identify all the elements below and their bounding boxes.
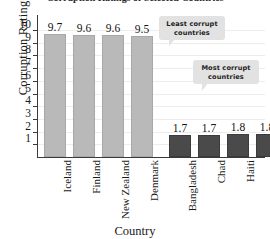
bar-new-zealand [102,35,124,157]
callout-tail-icon [169,39,175,46]
chart-title-clipped: Corruption Ratings of Selected Countries [0,0,270,5]
bar-bangladesh [169,135,191,157]
x-axis-category-label: New Zealand [119,160,132,219]
y-axis-tick [33,119,38,120]
chart-title-text: Corruption Ratings of Selected Countries [46,0,223,3]
bar-haiti [227,134,249,157]
bar-iceland [44,34,66,157]
y-axis-tick [33,106,38,107]
y-axis-tick [33,132,38,133]
y-axis-tick-label: 6 [9,70,31,81]
y-axis-tick-label: 3 [9,108,31,119]
y-axis-tick-label: 4 [9,95,31,106]
y-axis-tick [33,43,38,44]
x-axis-category-label: Chad [215,160,228,183]
y-axis-tick [33,94,38,95]
y-axis-tick [33,68,38,69]
y-axis-tick [33,81,38,82]
y-axis-tick [33,144,38,145]
y-axis-tick-label: 9 [9,32,31,43]
annotation-most-line2: countries [199,73,253,82]
y-axis-line [37,15,38,158]
x-axis-line [37,157,265,158]
y-axis-tick-label: 10 [9,19,31,30]
annotation-least-corrupt: Least corrupt countries [159,16,225,40]
x-axis-category-label: Denmark [148,160,161,201]
annotation-least-line2: countries [165,29,219,38]
y-axis-tick-label: 2 [9,121,31,132]
x-axis-category-label: Finland [90,160,103,194]
y-axis-tick-label: 5 [9,83,31,94]
y-axis-tick-label: 1 [9,133,31,144]
callout-tail-icon [202,83,208,91]
bar-finland [73,35,95,157]
x-axis-category-label: Bangladesh [186,160,199,211]
x-axis-category-label: Haiti [244,160,257,182]
bar-value-label: 1.8 [250,121,270,133]
bar-myanmar [256,134,270,157]
y-axis-tick [33,55,38,56]
bar-denmark [131,36,153,157]
x-axis-title: Country [0,224,270,239]
annotation-most-line1: Most corrupt [201,64,250,72]
bar-chad [198,135,220,157]
y-axis-tick-label: 7 [9,57,31,68]
annotation-most-corrupt: Most corrupt countries [193,60,259,84]
plot-area [37,15,265,158]
y-axis-tick-label: 8 [9,44,31,55]
bar-value-label: 9.5 [125,23,159,35]
bar-chart: Corruption Ratings of Selected Countries… [0,0,270,239]
x-axis-category-label: Iceland [61,160,74,192]
annotation-least-line1: Least corrupt [166,20,217,28]
